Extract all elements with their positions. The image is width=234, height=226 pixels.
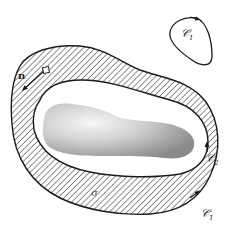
diagram-canvas: 𝒞1 𝒞1 𝒞2 n σ [0,0,234,226]
label-normal-n: n [18,70,26,81]
label-region-sigma: σ [91,187,99,198]
diagram-svg: 𝒞1 𝒞1 𝒞2 n σ [0,0,234,226]
surface-element-square-icon [43,67,50,74]
